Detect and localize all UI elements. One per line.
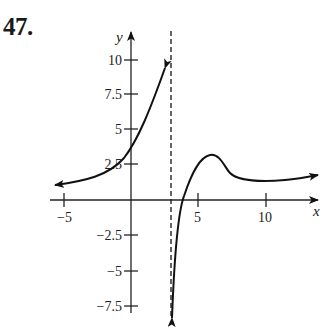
y-axis: 10 7.5 5 2.5 −2.5 −5 −7.5 y: [97, 29, 138, 314]
y-tick-label: −7.5: [97, 299, 122, 314]
y-tick-label: 7.5: [105, 87, 123, 102]
y-tick-label: 10: [108, 53, 122, 68]
curve-right-branch: [172, 155, 318, 318]
y-axis-label: y: [114, 29, 123, 45]
y-tick-label: 5: [115, 122, 122, 137]
y-tick-label: 2.5: [105, 157, 123, 172]
x-tick-label: 5: [194, 210, 201, 225]
x-axis: −5 5 10 x: [50, 193, 320, 225]
x-tick-label: −5: [57, 210, 72, 225]
y-tick-label: −5: [107, 264, 122, 279]
y-tick-label: −2.5: [97, 228, 122, 243]
graph: −5 5 10 x 10 7.5 5 2.5 −2.5 −5 −7.5 y: [0, 0, 335, 336]
x-tick-label: 10: [258, 210, 272, 225]
x-axis-label: x: [312, 203, 320, 219]
